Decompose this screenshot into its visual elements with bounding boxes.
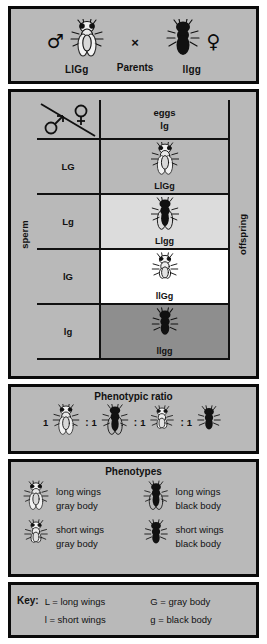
egg-gamete-lg: lg: [160, 120, 168, 131]
ratio-count-3: 1: [140, 417, 145, 428]
ratio-separator: :: [84, 417, 89, 428]
phenotype-long-black: long wings black body: [135, 480, 253, 516]
female-sex-icon: ♀: [206, 32, 220, 51]
phenotypes-grid: long wings gray body: [15, 480, 252, 554]
offspring-fly-gray-short-icon: [148, 252, 182, 290]
punnett-row-lg: lg: [37, 305, 230, 360]
phenotype-body-text: black body: [176, 538, 224, 549]
female-parent: ♀ llgg: [163, 19, 220, 75]
phenotypic-ratio-title: Phenotypic ratio: [94, 391, 172, 402]
punnett-cell-llgg: llgg: [101, 305, 230, 360]
sperm-gamete-lG: lG: [37, 250, 101, 305]
punnett-cell-llGg: llGg: [101, 250, 230, 305]
punnett-row-LG: LG: [37, 140, 230, 195]
key-panel: Key: L = long wings G = gray body l = sh…: [8, 582, 259, 638]
ratio-fly-gray-short-icon: [147, 405, 177, 439]
punnett-row-lG: lG: [37, 250, 230, 305]
offspring-fly-gray-long-icon: [148, 142, 182, 180]
phenotypes-panel: Phenotypes: [8, 459, 259, 577]
phenotypic-ratio-panel: Phenotypic ratio 1: [8, 384, 259, 454]
cross-symbol-group: × Parents: [113, 19, 158, 73]
phenotypes-title: Phenotypes: [105, 466, 162, 477]
phenotype-body-text: gray body: [56, 538, 104, 549]
phenotype-wing-text: long wings: [176, 486, 221, 497]
eggs-header: eggs lg: [101, 100, 230, 140]
key-entries: L = long wings G = gray body l = short w…: [45, 596, 250, 625]
pheno-fly-gray-short-icon: [21, 518, 51, 554]
phenotype-short-gray: short wings gray body: [15, 518, 133, 554]
punnett-row-Lg: Lg: [37, 195, 230, 250]
sperm-gamete-LG: LG: [37, 140, 101, 195]
pheno-fly-black-long-icon: [141, 480, 171, 516]
offspring-label: offspring: [238, 213, 249, 254]
key-entry-g: g = black body: [150, 614, 250, 625]
genetics-diagram: ♂: [0, 0, 267, 644]
eggs-label: eggs: [153, 107, 175, 118]
ratio-count-4: 1: [187, 417, 192, 428]
key-entry-l: l = short wings: [45, 614, 145, 625]
ratio-fly-black-short-icon: [194, 405, 224, 439]
ratio-separator: :: [133, 417, 138, 428]
ratio-fly-black-long-icon: [99, 404, 131, 440]
key-entry-G: G = gray body: [150, 596, 250, 607]
punnett-cell-LlGg: LlGg: [101, 140, 230, 195]
phenotype-wing-text: short wings: [176, 524, 224, 535]
ratio-separator: :: [179, 417, 184, 428]
offspring-axis: offspring: [230, 92, 256, 376]
male-parent-fly-icon: [67, 19, 107, 63]
key-entry-L: L = long wings: [45, 596, 145, 607]
offspring-fly-black-long-icon: [148, 197, 182, 235]
punnett-header-row: eggs lg: [37, 100, 230, 140]
punnett-cell-genotype: llGg: [156, 291, 174, 301]
parents-panel: ♂: [8, 6, 259, 84]
cross-icon: ×: [131, 35, 139, 50]
phenotype-wing-text: short wings: [56, 524, 104, 535]
pheno-fly-gray-long-icon: [21, 480, 51, 516]
female-parent-fly-icon: [163, 19, 203, 63]
punnett-cell-genotype: LlGg: [154, 181, 175, 191]
ratio-count-2: 1: [92, 417, 97, 428]
male-parent-genotype: LlGg: [65, 64, 89, 75]
phenotype-body-text: black body: [176, 500, 221, 511]
phenotypic-ratio-row: 1: [11, 404, 256, 440]
sperm-gamete-Lg: Lg: [37, 195, 101, 250]
sperm-label: sperm: [19, 220, 30, 249]
ratio-fly-gray-long-icon: [50, 404, 82, 440]
key-title: Key:: [17, 595, 39, 606]
punnett-corner-cell: [37, 100, 101, 140]
phenotype-long-gray: long wings gray body: [15, 480, 133, 516]
pheno-fly-black-short-icon: [141, 518, 171, 554]
male-parent: ♂: [47, 19, 107, 75]
punnett-cell-genotype: llgg: [157, 346, 173, 356]
punnett-grid: eggs lg LG: [37, 92, 230, 376]
ratio-count-1: 1: [43, 417, 48, 428]
female-parent-genotype: llgg: [183, 64, 202, 75]
phenotype-wing-text: long wings: [56, 486, 101, 497]
punnett-square-panel: sperm: [8, 89, 259, 379]
phenotype-body-text: gray body: [56, 500, 101, 511]
offspring-fly-black-short-icon: [148, 307, 182, 345]
punnett-cell-genotype: Llgg: [155, 236, 174, 246]
parents-label: Parents: [117, 62, 154, 73]
sperm-gamete-lg: lg: [37, 305, 101, 360]
male-sex-icon: ♂: [47, 32, 64, 51]
sperm-axis: sperm: [11, 92, 37, 376]
phenotype-short-black: short wings black body: [135, 518, 253, 554]
punnett-cell-Llgg: Llgg: [101, 195, 230, 250]
